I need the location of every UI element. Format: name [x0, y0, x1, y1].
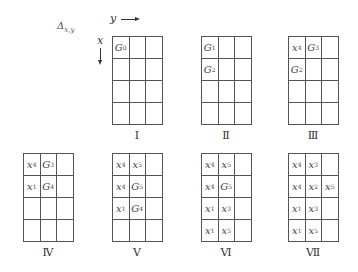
- grid-cell: G2: [289, 59, 306, 81]
- cell-subscript: 3: [315, 45, 319, 51]
- grid-cell: G4: [41, 176, 58, 198]
- grid-cell: [219, 59, 236, 81]
- cell-subscript: 1: [212, 45, 216, 51]
- grid-cell: [306, 103, 323, 125]
- grid-cell: [130, 81, 147, 103]
- grid-cell: [235, 176, 252, 198]
- cell-subscript: 1: [298, 228, 302, 234]
- grid-cell: [146, 176, 163, 198]
- grid-cell: x2: [306, 176, 323, 198]
- cell-subscript: 4: [211, 184, 215, 190]
- grid-cell: x4: [289, 154, 306, 176]
- grid-cell: x4: [202, 176, 219, 198]
- grid-cell: [235, 154, 252, 176]
- delta-subscript: x,y: [64, 26, 74, 34]
- x-axis-label: x: [97, 34, 103, 47]
- cell-subscript: 3: [50, 162, 54, 168]
- grid-cell: [130, 103, 147, 125]
- grid-6: x4x5x4G5x1x3x1x5: [201, 153, 252, 242]
- grid-cell: [146, 220, 163, 242]
- grid-cell: [235, 81, 252, 103]
- grid-cell: G5: [130, 176, 147, 198]
- delta-xy-label: Δx,y: [57, 20, 74, 34]
- cell-subscript: 4: [50, 184, 54, 190]
- grid-cell: x5: [130, 154, 147, 176]
- grid-cell: x4: [113, 154, 130, 176]
- grid-cell: x4: [289, 176, 306, 198]
- grid-cell: x1: [202, 198, 219, 220]
- grid-cell: [289, 81, 306, 103]
- grid-cell: G3: [41, 154, 58, 176]
- grid-cell: [57, 176, 74, 198]
- y-axis-label: y: [110, 12, 116, 25]
- grid-cell: [235, 198, 252, 220]
- grid-cell: [322, 59, 339, 81]
- grid-cell: [306, 81, 323, 103]
- grid-cell: x1: [202, 220, 219, 242]
- grid-cell: [322, 198, 339, 220]
- grid-7: x4x3x4x2x5x1x3x1x5: [288, 153, 339, 242]
- grid-cell: [146, 37, 163, 59]
- cell-subscript: 5: [138, 162, 142, 168]
- grid-cell: [130, 59, 147, 81]
- grid-cell: G2: [202, 59, 219, 81]
- cell-subscript: 3: [227, 206, 231, 212]
- grid-cell: [202, 103, 219, 125]
- cell-subscript: 2: [314, 184, 318, 190]
- grid-7-label: Ⅶ: [288, 246, 338, 259]
- grid-cell: [41, 198, 58, 220]
- cell-subscript: 5: [227, 228, 231, 234]
- grid-cell: [24, 198, 41, 220]
- grid-cell: [146, 198, 163, 220]
- cell-subscript: 5: [228, 184, 232, 190]
- cell-subscript: 4: [122, 162, 126, 168]
- grid-cell: [322, 103, 339, 125]
- cell-subscript: 3: [314, 162, 318, 168]
- grid-cell: [146, 81, 163, 103]
- cell-subscript: 4: [33, 162, 37, 168]
- cell-subscript: 1: [211, 206, 215, 212]
- grid-cell: [322, 154, 339, 176]
- cell-symbol: G: [115, 43, 123, 53]
- cell-subscript: 1: [33, 184, 37, 190]
- grid-3-label: Ⅲ: [288, 129, 338, 142]
- cell-symbol: G: [220, 182, 228, 192]
- grid-cell: [130, 37, 147, 59]
- grid-cell: [24, 220, 41, 242]
- grid-cell: [113, 103, 130, 125]
- grid-cell: G3: [306, 37, 323, 59]
- grid-cell: [202, 81, 219, 103]
- grid-5-label: Ⅴ: [112, 246, 162, 259]
- cell-subscript: 4: [298, 162, 302, 168]
- grid-cell: x5: [219, 220, 236, 242]
- grid-cell: x4: [289, 37, 306, 59]
- grid-cell: x3: [219, 198, 236, 220]
- cell-subscript: 4: [122, 184, 126, 190]
- cell-symbol: G: [291, 65, 299, 75]
- grid-2-label: Ⅱ: [201, 129, 251, 142]
- cell-subscript: 1: [122, 206, 126, 212]
- grid-cell: [57, 198, 74, 220]
- cell-subscript: 5: [227, 162, 231, 168]
- grid-cell: [113, 59, 130, 81]
- grid-3: x4G3G2: [288, 36, 339, 125]
- grid-4: x4G3x1G4: [23, 153, 74, 242]
- grid-cell: x1: [113, 198, 130, 220]
- cell-subscript: 2: [212, 67, 216, 73]
- grid-cell: [322, 220, 339, 242]
- grid-cell: x1: [24, 176, 41, 198]
- cell-subscript: 4: [298, 45, 302, 51]
- cell-subscript: 4: [298, 184, 302, 190]
- grid-cell: [235, 59, 252, 81]
- grid-cell: x5: [322, 176, 339, 198]
- grid-cell: x4: [202, 154, 219, 176]
- grid-cell: [289, 103, 306, 125]
- grid-cell: x5: [306, 220, 323, 242]
- grid-cell: [57, 154, 74, 176]
- grid-cell: [130, 220, 147, 242]
- cell-symbol: G: [307, 43, 315, 53]
- cell-symbol: G: [204, 43, 212, 53]
- grid-cell: [146, 154, 163, 176]
- grid-cell: G1: [202, 37, 219, 59]
- grid-4-label: Ⅳ: [23, 246, 73, 259]
